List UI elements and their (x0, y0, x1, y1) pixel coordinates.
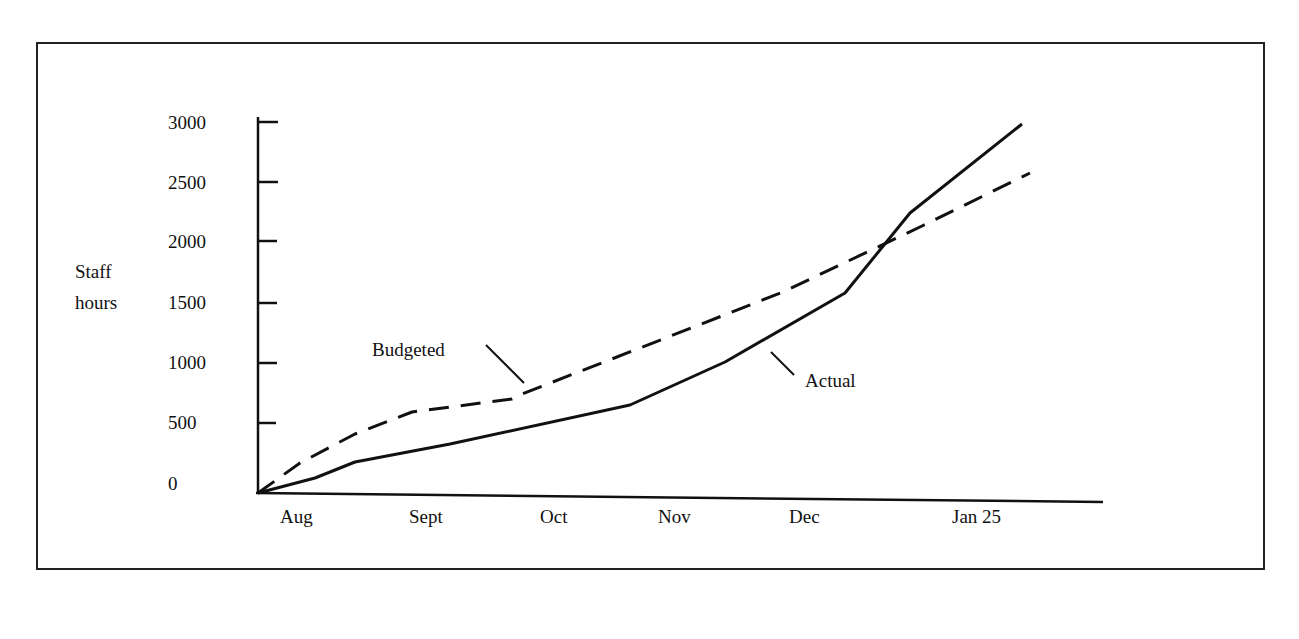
y-label-2000: 2000 (168, 231, 206, 252)
axes (256, 117, 1103, 502)
y-label-500: 500 (168, 412, 197, 433)
budgeted-annotation-label: Budgeted (372, 339, 445, 360)
actual-annotation-label: Actual (805, 370, 856, 391)
y-label-0: 0 (168, 473, 178, 494)
actual-series-line (258, 124, 1022, 493)
y-tick-labels: 3000 2500 2000 1500 1000 500 0 (168, 112, 206, 494)
y-axis-title-line2: hours (75, 292, 117, 313)
x-tick-labels: Aug Sept Oct Nov Dec Jan 25 (280, 506, 1001, 527)
x-label-sept: Sept (409, 506, 444, 527)
y-axis-title-line1: Staff (75, 261, 112, 282)
x-label-oct: Oct (540, 506, 568, 527)
x-label-aug: Aug (280, 506, 313, 527)
x-label-nov: Nov (658, 506, 691, 527)
y-label-2500: 2500 (168, 172, 206, 193)
x-label-dec: Dec (789, 506, 820, 527)
x-label-jan25: Jan 25 (952, 506, 1001, 527)
y-label-1500: 1500 (168, 292, 206, 313)
x-axis (256, 493, 1103, 502)
budgeted-annotation-leader (486, 345, 524, 383)
actual-annotation-leader (771, 352, 794, 375)
budgeted-series-line (258, 173, 1030, 493)
y-label-1000: 1000 (168, 352, 206, 373)
y-label-3000: 3000 (168, 112, 206, 133)
staff-hours-chart: 3000 2500 2000 1500 1000 500 0 Staff hou… (0, 0, 1299, 639)
